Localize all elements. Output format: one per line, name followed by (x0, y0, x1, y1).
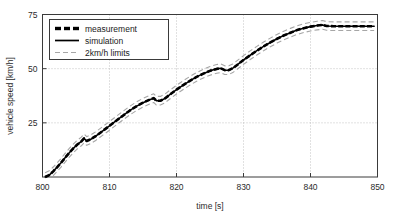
chart-figure: 800810820830840850 255075 time [s] vehic… (0, 0, 400, 218)
y-tick-label: 50 (28, 64, 38, 74)
x-tick-label: 810 (102, 182, 116, 192)
x-tick-label: 820 (169, 182, 183, 192)
x-tick-label: 850 (370, 182, 384, 192)
legend-label-measurement: measurement (85, 24, 138, 34)
x-tick-label: 830 (236, 182, 250, 192)
x-axis-label: time [s] (196, 201, 223, 211)
y-tick-label: 75 (28, 10, 38, 20)
y-axis-label: vehicle speed [km/h] (5, 57, 15, 134)
chart-legend[interactable]: measurement simulation 2km/h limits (50, 20, 169, 60)
vehicle-speed-line-chart: 800810820830840850 255075 time [s] vehic… (0, 0, 400, 218)
x-tick-label: 800 (35, 182, 49, 192)
legend-label-simulation: simulation (85, 36, 124, 46)
x-tick-label: 840 (303, 182, 317, 192)
legend-label-limits: 2km/h limits (85, 48, 130, 58)
y-tick-label: 25 (28, 118, 38, 128)
